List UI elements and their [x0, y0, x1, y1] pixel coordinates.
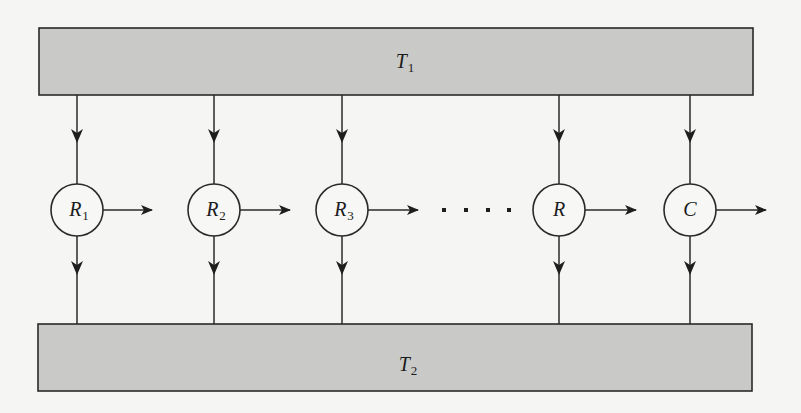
bottom-bus-label-subscript: 2 [411, 363, 418, 378]
top-bus-label-subscript: 1 [408, 60, 415, 75]
node-label-text: R [553, 198, 565, 220]
bottom-bus-label-text: T [399, 353, 410, 375]
top-bus-label: T1 [396, 51, 415, 74]
node-r1-label: R1 [69, 199, 89, 222]
node-label-text: R [334, 198, 346, 220]
bottom-bus-box [38, 324, 752, 391]
node-label-text: C [683, 198, 696, 220]
node-label-subscript: 2 [219, 208, 226, 223]
node-c-label: C [683, 199, 696, 219]
node-label-text: R [69, 198, 81, 220]
node-label-subscript: 3 [347, 208, 354, 223]
node-label-subscript: 1 [82, 208, 89, 223]
node-label-text: R [206, 198, 218, 220]
diagram-canvas: T1 T2 R1 R2 R3 R C [0, 0, 801, 413]
down-arrowheads-top [71, 129, 696, 143]
top-bus-label-text: T [396, 50, 407, 72]
node-r2-label: R2 [206, 199, 226, 222]
down-arrowheads-bottom [71, 261, 696, 275]
node-r3-label: R3 [334, 199, 354, 222]
bottom-bus-label: T2 [399, 354, 418, 377]
node-r-label: R [553, 199, 565, 219]
ellipsis-dots [442, 208, 511, 212]
down-connectors-bottom [77, 236, 690, 324]
down-connectors-top [77, 95, 690, 184]
